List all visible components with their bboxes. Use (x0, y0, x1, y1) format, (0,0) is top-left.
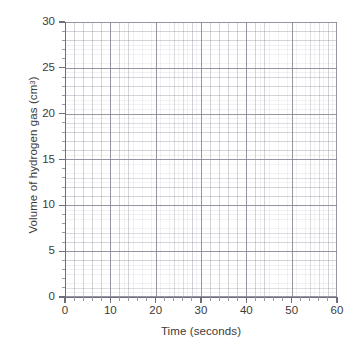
x-tick-mark-minor (318, 297, 319, 301)
y-tick-mark-minor (62, 141, 66, 142)
x-tick-label: 10 (90, 305, 130, 317)
x-tick-mark (246, 297, 247, 303)
x-tick-mark-minor (210, 297, 211, 301)
y-tick-mark-minor (62, 31, 66, 32)
x-tick-mark-minor (119, 297, 120, 301)
y-tick-mark-minor (62, 168, 66, 169)
x-tick-label: 40 (226, 305, 266, 317)
chart-container: Volume of hydrogen gas (cm3) 05101520253… (0, 0, 355, 356)
y-tick-label: 25 (15, 62, 55, 74)
plot-border-right (336, 22, 337, 297)
x-tick-mark-minor (164, 297, 165, 301)
y-tick-mark (59, 21, 65, 22)
y-tick-mark-minor (62, 77, 66, 78)
x-tick-mark (291, 297, 292, 303)
x-tick-label: 50 (272, 305, 312, 317)
y-tick-mark-minor (62, 122, 66, 123)
y-tick-mark (59, 67, 65, 68)
x-tick-mark-minor (219, 297, 220, 301)
y-tick-mark-minor (62, 287, 66, 288)
y-tick-mark-minor (62, 150, 66, 151)
x-tick-mark-minor (282, 297, 283, 301)
x-tick-mark-minor (191, 297, 192, 301)
x-tick-mark-minor (146, 297, 147, 301)
y-tick-mark-minor (62, 214, 66, 215)
y-tick-label: 15 (15, 154, 55, 166)
y-tick-mark-minor (62, 86, 66, 87)
x-tick-mark-minor (237, 297, 238, 301)
y-tick-mark-minor (62, 95, 66, 96)
y-tick-label: 0 (15, 291, 55, 303)
y-tick-mark-minor (62, 49, 66, 50)
y-tick-mark-minor (62, 187, 66, 188)
x-tick-mark-minor (228, 297, 229, 301)
x-tick-mark (155, 297, 156, 303)
y-tick-mark-minor (62, 223, 66, 224)
x-tick-mark-minor (137, 297, 138, 301)
y-tick-mark-minor (62, 177, 66, 178)
x-tick-mark-minor (182, 297, 183, 301)
x-tick-mark-minor (273, 297, 274, 301)
y-tick-mark-minor (62, 40, 66, 41)
x-tick-mark-minor (327, 297, 328, 301)
x-tick-mark (200, 297, 201, 303)
y-tick-label: 5 (15, 245, 55, 257)
y-tick-mark-minor (62, 232, 66, 233)
y-tick-mark (59, 251, 65, 252)
y-tick-mark-minor (62, 132, 66, 133)
y-axis-line (65, 22, 66, 298)
x-tick-mark-minor (300, 297, 301, 301)
x-tick-mark (64, 297, 65, 303)
y-tick-label: 20 (15, 108, 55, 120)
x-tick-mark (336, 297, 337, 303)
x-tick-mark-minor (128, 297, 129, 301)
y-tick-mark (59, 205, 65, 206)
x-tick-mark-minor (264, 297, 265, 301)
y-tick-mark-minor (62, 242, 66, 243)
y-tick-mark-minor (62, 278, 66, 279)
y-tick-mark-minor (62, 104, 66, 105)
y-tick-label: 10 (15, 199, 55, 211)
x-tick-mark (110, 297, 111, 303)
x-tick-mark-minor (101, 297, 102, 301)
x-tick-mark-minor (173, 297, 174, 301)
x-tick-mark-minor (309, 297, 310, 301)
x-tick-label: 0 (45, 305, 85, 317)
y-tick-mark-minor (62, 196, 66, 197)
x-tick-mark-minor (255, 297, 256, 301)
x-tick-mark-minor (74, 297, 75, 301)
y-tick-mark (59, 159, 65, 160)
y-tick-mark-minor (62, 58, 66, 59)
x-tick-mark-minor (92, 297, 93, 301)
y-tick-label: 30 (15, 16, 55, 28)
x-tick-label: 20 (136, 305, 176, 317)
y-tick-mark-minor (62, 269, 66, 270)
x-tick-label: 60 (317, 305, 355, 317)
plot-area (65, 22, 337, 297)
x-tick-mark-minor (83, 297, 84, 301)
y-axis-title-tail: ) (27, 76, 39, 80)
x-axis-title: Time (seconds) (65, 325, 337, 337)
y-tick-mark-minor (62, 260, 66, 261)
x-tick-label: 30 (181, 305, 221, 317)
y-tick-mark (59, 113, 65, 114)
